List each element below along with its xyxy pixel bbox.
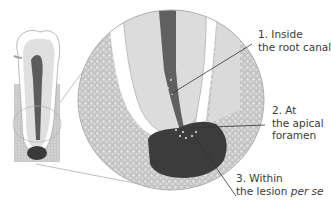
label-2-line2: the apical: [272, 117, 324, 130]
tooth-overview: [13, 30, 61, 162]
label-1-line1: 1. Inside: [258, 28, 331, 41]
label-inside-root-canal: 1. Inside the root canal: [258, 28, 331, 53]
label-3-line2: the lesion per se: [236, 185, 323, 198]
tooth-diagram: 1. Inside the root canal 2. At the apica…: [0, 0, 331, 206]
label-within-lesion: 3. Within the lesion per se: [236, 172, 323, 197]
label-apical-foramen: 2. At the apical foramen: [272, 104, 324, 142]
magnified-view: [70, 0, 270, 200]
label-1-line2: the root canal: [258, 41, 331, 54]
label-3-prefix: the lesion: [236, 185, 291, 197]
label-2-line1: 2. At: [272, 104, 324, 117]
label-3-line1: 3. Within: [236, 172, 323, 185]
label-2-line3: foramen: [272, 129, 324, 142]
label-3-italic: per se: [291, 185, 324, 197]
